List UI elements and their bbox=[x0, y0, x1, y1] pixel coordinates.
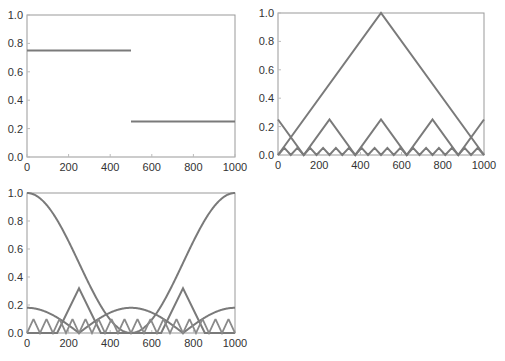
series-line bbox=[278, 13, 484, 155]
x-tick-label: 0 bbox=[275, 159, 281, 171]
x-tick-label: 600 bbox=[392, 159, 410, 171]
chart-panel-3: 020040060080010000.00.20.40.60.81.0 bbox=[8, 187, 248, 349]
x-tick-label: 800 bbox=[184, 337, 202, 349]
x-tick-label: 600 bbox=[143, 161, 161, 173]
chart-panel-1: 020040060080010000.00.20.40.60.81.0 bbox=[8, 9, 248, 173]
y-tick-label: 0.0 bbox=[8, 151, 23, 163]
y-tick-label: 0.0 bbox=[8, 327, 23, 339]
chart-panel-2: 020040060080010000.00.20.40.60.81.0 bbox=[259, 7, 497, 171]
chart-figure: 020040060080010000.00.20.40.60.81.002004… bbox=[0, 0, 505, 361]
y-tick-label: 1.0 bbox=[8, 9, 23, 21]
y-tick-label: 0.4 bbox=[8, 94, 23, 106]
x-tick-label: 800 bbox=[434, 159, 452, 171]
x-tick-label: 600 bbox=[143, 337, 161, 349]
x-tick-label: 1000 bbox=[223, 161, 247, 173]
y-tick-label: 0.2 bbox=[259, 121, 274, 133]
plot-frame bbox=[27, 15, 235, 157]
y-tick-label: 0.8 bbox=[8, 37, 23, 49]
x-tick-label: 200 bbox=[59, 337, 77, 349]
y-tick-label: 0.6 bbox=[8, 66, 23, 78]
x-tick-label: 0 bbox=[24, 337, 30, 349]
y-tick-label: 0.4 bbox=[8, 271, 23, 283]
series-line bbox=[278, 148, 484, 155]
x-tick-label: 1000 bbox=[223, 337, 247, 349]
x-tick-label: 0 bbox=[24, 161, 30, 173]
x-tick-label: 400 bbox=[101, 161, 119, 173]
x-tick-label: 200 bbox=[310, 159, 328, 171]
y-tick-label: 0.6 bbox=[259, 64, 274, 76]
x-tick-label: 1000 bbox=[472, 159, 496, 171]
series-line bbox=[27, 288, 235, 333]
y-tick-label: 0.8 bbox=[259, 35, 274, 47]
y-tick-label: 0.6 bbox=[8, 243, 23, 255]
x-tick-label: 200 bbox=[59, 161, 77, 173]
y-tick-label: 1.0 bbox=[259, 7, 274, 19]
plot-frame bbox=[278, 13, 484, 155]
x-tick-label: 400 bbox=[101, 337, 119, 349]
x-tick-label: 400 bbox=[351, 159, 369, 171]
y-tick-label: 0.2 bbox=[8, 123, 23, 135]
series-line bbox=[27, 193, 235, 333]
series-line bbox=[27, 51, 235, 122]
y-tick-label: 0.2 bbox=[8, 299, 23, 311]
plot-frame bbox=[27, 193, 235, 333]
y-tick-label: 1.0 bbox=[8, 187, 23, 199]
y-tick-label: 0.4 bbox=[259, 92, 274, 104]
y-tick-label: 0.0 bbox=[259, 149, 274, 161]
x-tick-label: 800 bbox=[184, 161, 202, 173]
y-tick-label: 0.8 bbox=[8, 215, 23, 227]
